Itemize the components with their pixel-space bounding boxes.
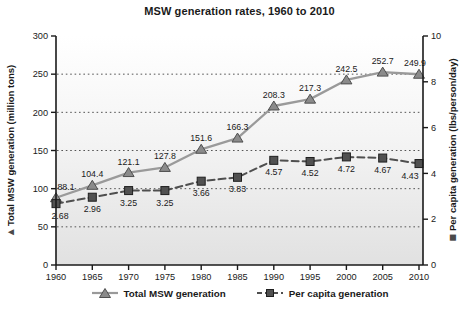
square-marker-icon: ■ [448, 234, 457, 242]
data-point-marker [161, 187, 169, 195]
data-label: 3.83 [229, 184, 246, 194]
data-label: 2.96 [84, 204, 101, 214]
right-tick-label: 8 [431, 77, 436, 87]
x-tick-label: 2000 [336, 272, 356, 282]
legend-item-total: Total MSW generation [91, 287, 226, 299]
data-label: 88.1 [57, 182, 74, 192]
data-point-marker [342, 153, 350, 161]
data-point-marker [234, 173, 242, 181]
right-tick-label: 2 [431, 214, 436, 224]
left-tick-label: 100 [33, 184, 48, 194]
data-label: 3.25 [156, 198, 173, 208]
legend: Total MSW generation Per capita generati… [56, 287, 423, 299]
data-label: 4.52 [302, 168, 319, 178]
right-tick-label: 0 [431, 260, 436, 270]
triangle-marker-icon: ▲ [6, 229, 15, 235]
right-tick-label: 10 [431, 31, 441, 41]
left-tick-label: 250 [33, 69, 48, 79]
legend-item-percap: Per capita generation [256, 287, 389, 299]
data-label: 4.43 [401, 171, 418, 181]
total-line-symbol-icon [91, 287, 119, 299]
data-point-marker [125, 187, 133, 195]
x-tick-label: 1975 [155, 272, 175, 282]
data-label: 4.57 [265, 167, 282, 177]
data-point-marker [379, 154, 387, 162]
data-label: 2.68 [51, 211, 68, 221]
data-label: 4.72 [338, 164, 355, 174]
data-label: 104.4 [81, 169, 103, 179]
data-point-marker [415, 160, 423, 168]
left-tick-label: 200 [33, 108, 48, 118]
data-label: 3.66 [193, 188, 210, 198]
left-tick-label: 300 [33, 31, 48, 41]
left-tick-label: 0 [43, 260, 48, 270]
data-label: 208.3 [263, 90, 285, 100]
x-tick-label: 1960 [46, 272, 66, 282]
x-tick-label: 1985 [227, 272, 247, 282]
percap-line-symbol-icon [256, 287, 284, 299]
legend-label-percap: Per capita generation [289, 288, 389, 299]
x-tick-label: 1970 [118, 272, 138, 282]
data-point-marker [197, 177, 205, 185]
right-axis-title-text: Per capita generation (lbs/person/day) [447, 58, 458, 231]
x-tick-label: 2005 [372, 272, 392, 282]
right-axis-title: ■Per capita generation (lbs/person/day) [447, 58, 458, 241]
data-label: 121.1 [118, 157, 140, 167]
x-tick-label: 1995 [300, 272, 320, 282]
chart-msw-generation: MSW generation rates, 1960 to 2010 88.11… [0, 0, 465, 317]
data-point-marker [88, 193, 96, 201]
data-label: 3.25 [120, 198, 137, 208]
data-point-marker [270, 156, 278, 164]
data-label: 4.67 [374, 165, 391, 175]
left-axis-title-text: Total MSW generation (million tons) [5, 65, 16, 226]
data-label: 151.6 [190, 133, 212, 143]
x-tick-label: 1980 [191, 272, 211, 282]
x-tick-label: 1965 [82, 272, 102, 282]
right-tick-label: 6 [431, 123, 436, 133]
data-label: 242.5 [335, 64, 357, 74]
data-label: 166.3 [226, 122, 248, 132]
left-tick-label: 150 [33, 146, 48, 156]
data-label: 127.8 [154, 151, 176, 161]
left-axis-title: ▲Total MSW generation (million tons) [5, 65, 16, 235]
legend-label-total: Total MSW generation [124, 288, 226, 299]
data-label: 252.7 [372, 56, 394, 66]
plot-area: 88.1104.4121.1127.8151.6166.3208.3217.32… [0, 0, 465, 317]
left-tick-label: 50 [38, 222, 48, 232]
data-label: 217.3 [299, 83, 321, 93]
x-tick-label: 1990 [264, 272, 284, 282]
data-point-marker [306, 157, 314, 165]
x-tick-label: 2010 [409, 272, 429, 282]
right-tick-label: 4 [431, 169, 436, 179]
